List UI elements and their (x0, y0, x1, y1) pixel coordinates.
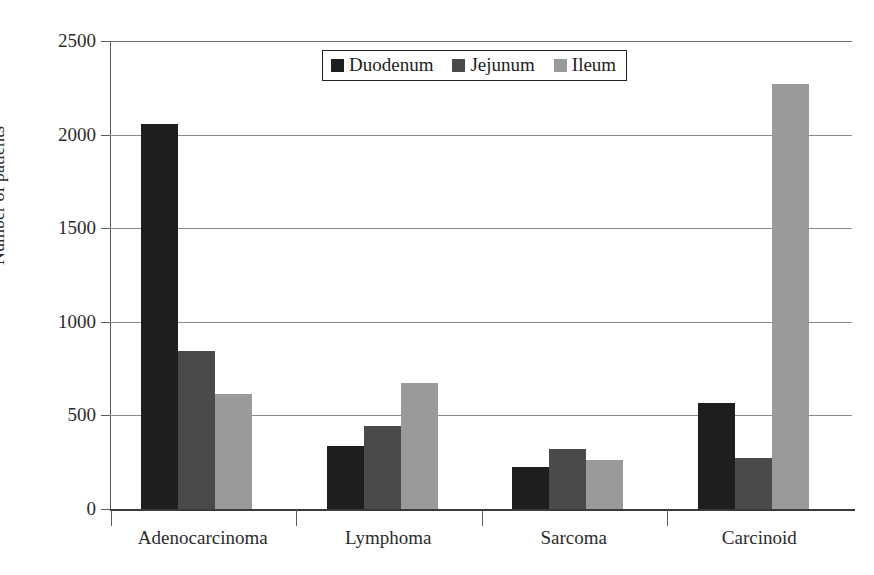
legend-swatch-duodenum (331, 59, 344, 72)
y-tick-mark (101, 41, 110, 42)
y-tick-label: 0 (87, 499, 97, 518)
bar-group (698, 41, 809, 509)
bar-group (512, 41, 623, 509)
bar-ileum-sarcoma (586, 460, 623, 509)
legend-label-jejunum: Jejunum (470, 55, 534, 75)
bar-ileum-carcinoid (772, 84, 809, 509)
legend-swatch-ileum (554, 59, 567, 72)
y-tick-mark (101, 228, 110, 229)
y-axis-title: Number of patients (0, 126, 9, 265)
legend-item-jejunum: Jejunum (452, 55, 534, 75)
y-axis-tick-labels: 2500 2000 1500 1000 500 0 (0, 0, 104, 575)
x-axis-line (110, 509, 855, 511)
bar-ileum-adenocarcinoma (215, 394, 252, 509)
y-tick-mark (101, 322, 110, 323)
x-tick-mark (667, 510, 668, 526)
x-axis-label-sarcoma: Sarcoma (481, 527, 667, 549)
x-axis-label-adenocarcinoma: Adenocarcinoma (110, 527, 296, 549)
x-tick-mark (482, 510, 483, 526)
bar-group (327, 41, 438, 509)
bar-duodenum-adenocarcinoma (141, 124, 178, 509)
bar-duodenum-carcinoid (698, 403, 735, 509)
plot-area (110, 41, 852, 509)
y-tick-mark (101, 509, 110, 510)
y-tick-mark (101, 135, 110, 136)
y-tick-label: 1000 (58, 312, 96, 331)
bar-duodenum-sarcoma (512, 467, 549, 509)
bar-jejunum-adenocarcinoma (178, 351, 215, 509)
legend-swatch-jejunum (452, 59, 465, 72)
legend-label-ileum: Ileum (572, 55, 616, 75)
x-axis-label-lymphoma: Lymphoma (296, 527, 482, 549)
bar-jejunum-sarcoma (549, 449, 586, 509)
y-tick-mark (101, 415, 110, 416)
y-tick-label: 2000 (58, 125, 96, 144)
x-tick-mark (296, 510, 297, 526)
bar-group (141, 41, 252, 509)
x-axis-label-carcinoid: Carcinoid (667, 527, 853, 549)
bar-jejunum-lymphoma (364, 426, 401, 509)
legend-item-ileum: Ileum (554, 55, 616, 75)
legend-item-duodenum: Duodenum (331, 55, 433, 75)
bar-ileum-lymphoma (401, 383, 438, 509)
bar-duodenum-lymphoma (327, 446, 364, 509)
legend: Duodenum Jejunum Ileum (322, 50, 627, 81)
y-tick-label: 500 (68, 405, 97, 424)
bar-chart: 2500 2000 1500 1000 500 0 Number of pati… (0, 0, 874, 575)
y-tick-label: 2500 (58, 31, 96, 50)
legend-label-duodenum: Duodenum (349, 55, 433, 75)
y-tick-label: 1500 (58, 218, 96, 237)
x-tick-mark (111, 510, 112, 526)
bar-jejunum-carcinoid (735, 458, 772, 509)
